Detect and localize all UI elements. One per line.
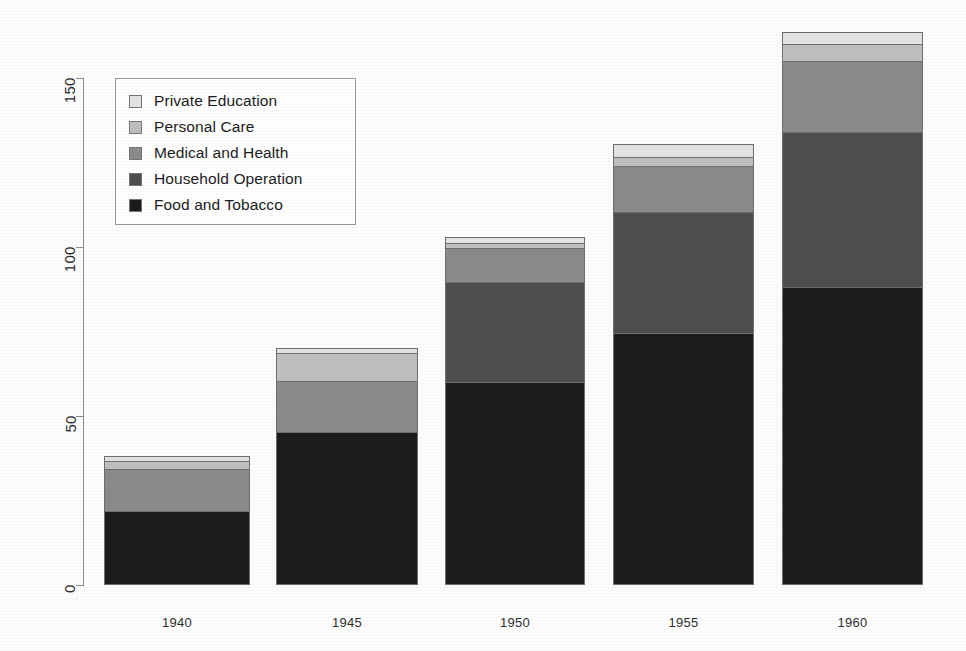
x-tick-label-1940: 1940: [104, 615, 250, 630]
legend-label: Food and Tobacco: [154, 196, 283, 214]
bar-segment-personal-care[interactable]: [613, 157, 754, 166]
legend: Private Education Personal Care Medical …: [115, 78, 356, 225]
legend-label: Private Education: [154, 92, 277, 110]
bar-segment-household-operation[interactable]: [613, 212, 754, 333]
bar-segment-food-and-tobacco[interactable]: [276, 432, 418, 585]
x-tick-label-1950: 1950: [445, 615, 585, 630]
bar-segment-medical-and-health[interactable]: [276, 381, 418, 432]
bar-segment-medical-and-health[interactable]: [782, 61, 923, 132]
bar-1955[interactable]: [613, 144, 754, 585]
bar-segment-medical-and-health[interactable]: [445, 248, 585, 282]
bar-segment-food-and-tobacco[interactable]: [445, 382, 585, 585]
stacked-bar-chart: 150 100 50 0: [0, 0, 966, 651]
bar-segment-food-and-tobacco[interactable]: [613, 333, 754, 585]
legend-swatch-icon: [129, 147, 142, 160]
bar-segment-food-and-tobacco[interactable]: [782, 287, 923, 585]
legend-swatch-icon: [129, 173, 142, 186]
bar-segment-private-education[interactable]: [613, 144, 754, 157]
legend-item-personal-care[interactable]: Personal Care: [129, 114, 344, 140]
legend-swatch-icon: [129, 199, 142, 212]
bar-segment-household-operation[interactable]: [445, 282, 585, 382]
bar-segment-private-education[interactable]: [104, 456, 250, 461]
y-tick-label-50: 50: [62, 416, 79, 433]
y-tick-label-150: 150: [62, 78, 79, 104]
bar-1960[interactable]: [782, 32, 923, 585]
x-tick-label-1960: 1960: [782, 615, 923, 630]
legend-label: Household Operation: [154, 170, 302, 188]
legend-label: Medical and Health: [154, 144, 289, 162]
bar-segment-personal-care[interactable]: [276, 353, 418, 381]
bar-1945[interactable]: [276, 348, 418, 585]
bar-segment-food-and-tobacco[interactable]: [104, 511, 250, 585]
bar-segment-personal-care[interactable]: [445, 243, 585, 248]
bar-segment-private-education[interactable]: [276, 348, 418, 353]
bar-segment-household-operation[interactable]: [782, 132, 923, 287]
y-tick-label-100: 100: [62, 247, 79, 273]
bar-segment-personal-care[interactable]: [782, 44, 923, 61]
y-tick-label-0: 0: [62, 585, 79, 594]
bar-1950[interactable]: [445, 237, 585, 585]
y-axis-line: [83, 78, 84, 585]
legend-item-private-education[interactable]: Private Education: [129, 88, 344, 114]
bar-segment-private-education[interactable]: [782, 32, 923, 44]
legend-swatch-icon: [129, 121, 142, 134]
bar-segment-medical-and-health[interactable]: [613, 166, 754, 212]
legend-label: Personal Care: [154, 118, 254, 136]
x-tick-label-1955: 1955: [613, 615, 754, 630]
bar-segment-personal-care[interactable]: [104, 461, 250, 469]
bar-segment-medical-and-health[interactable]: [104, 469, 250, 511]
bar-segment-private-education[interactable]: [445, 237, 585, 243]
legend-swatch-icon: [129, 95, 142, 108]
legend-item-medical-and-health[interactable]: Medical and Health: [129, 140, 344, 166]
plot-area: 150 100 50 0: [0, 0, 966, 651]
legend-item-household-operation[interactable]: Household Operation: [129, 166, 344, 192]
legend-item-food-and-tobacco[interactable]: Food and Tobacco: [129, 192, 344, 218]
x-tick-label-1945: 1945: [276, 615, 418, 630]
bar-1940[interactable]: [104, 456, 250, 585]
